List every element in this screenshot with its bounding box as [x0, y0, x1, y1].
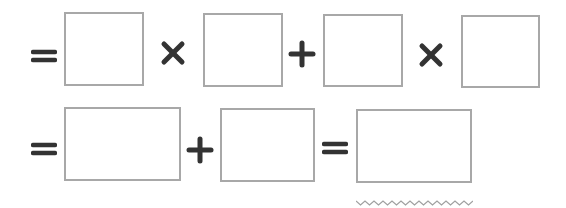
answer-box-final[interactable] [356, 109, 472, 183]
wavy-underline [356, 192, 473, 208]
plus-sign [186, 136, 214, 164]
times-sign [418, 42, 444, 68]
answer-box-2[interactable] [203, 13, 283, 87]
answer-box-3[interactable] [323, 14, 403, 87]
answer-box-6[interactable] [220, 108, 315, 182]
times-sign [160, 40, 186, 66]
equals-sign [322, 141, 348, 155]
answer-box-4[interactable] [461, 15, 540, 88]
equals-sign [31, 49, 57, 63]
answer-box-5[interactable] [64, 107, 181, 181]
plus-sign [288, 40, 316, 68]
equals-sign [31, 142, 57, 156]
answer-box-1[interactable] [64, 12, 144, 86]
